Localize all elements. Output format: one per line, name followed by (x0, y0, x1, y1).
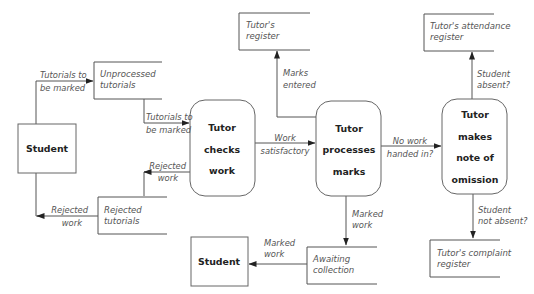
flow-label-f11: Student not absent? (478, 205, 528, 226)
svg-text:work: work (62, 218, 83, 228)
svg-text:work: work (158, 173, 179, 183)
entity-label: Student (198, 256, 241, 267)
store-label: register (437, 259, 471, 269)
entity-student-bottom: Student (191, 237, 248, 286)
store-label: Tutor's attendance (430, 21, 510, 31)
store-awaiting-collection: Awaiting collection (307, 247, 377, 284)
flow-label-f9: No work handed in? (387, 136, 434, 159)
store-label: Unprocessed (100, 69, 156, 79)
store-label: tutorials (100, 80, 136, 90)
svg-text:Work: Work (274, 133, 297, 143)
svg-text:Tutorials to: Tutorials to (146, 112, 193, 122)
svg-text:be marked: be marked (146, 125, 192, 135)
svg-text:Tutorials to: Tutorials to (40, 70, 87, 80)
store-tutors-register: Tutor's register (239, 13, 310, 50)
store-unprocessed-tutorials: Unprocessed tutorials (94, 62, 162, 99)
store-tutors-attendance-register: Tutor's attendance register (424, 14, 510, 51)
flow-label-f5: Work satisfactory (261, 133, 311, 156)
process-tutor-processes-marks: Tutor processes marks (316, 101, 381, 196)
store-label: Awaiting (312, 254, 351, 264)
store-label: register (246, 31, 280, 41)
svg-text:Rejected: Rejected (51, 205, 88, 215)
process-label: marks (333, 166, 366, 177)
store-label: Rejected (104, 205, 142, 215)
store-label: Tutor's (246, 20, 275, 30)
flow-label-f10: Student absent? (477, 69, 511, 90)
entity-student-left: Student (18, 124, 76, 173)
flow-label-f6: Marks entered (283, 68, 316, 90)
flow-label-f8: Marked work (264, 238, 296, 259)
store-label: register (430, 32, 464, 42)
store-label: Tutor's complaint (437, 248, 512, 258)
svg-text:entered: entered (283, 80, 316, 90)
svg-text:not absent?: not absent? (478, 216, 528, 226)
svg-text:be marked: be marked (40, 83, 86, 93)
process-tutor-makes-note-of-omission: Tutor makes note of omission (442, 99, 507, 194)
svg-text:absent?: absent? (477, 80, 511, 90)
process-tutor-checks-work: Tutor checks work (190, 100, 255, 196)
svg-text:Marked: Marked (352, 209, 384, 219)
svg-text:Student: Student (477, 69, 511, 79)
process-label: omission (452, 174, 499, 185)
process-label: work (209, 165, 236, 176)
svg-text:Marked: Marked (264, 238, 296, 248)
process-label: checks (204, 144, 240, 155)
process-label: Tutor (461, 109, 489, 120)
svg-text:Rejected: Rejected (149, 161, 186, 171)
svg-text:Marks: Marks (283, 68, 309, 78)
process-label: processes (323, 144, 376, 155)
store-label: tutorials (104, 216, 140, 226)
store-tutors-complaint-register: Tutor's complaint register (430, 240, 512, 277)
svg-text:satisfactory: satisfactory (261, 146, 311, 156)
svg-text:handed in?: handed in? (387, 149, 434, 159)
entity-label: Student (26, 143, 69, 154)
store-rejected-tutorials: Rejected tutorials (98, 197, 167, 234)
flow-label-f7: Marked work (352, 209, 384, 230)
store-label: collection (313, 265, 354, 275)
process-label: makes (458, 131, 492, 142)
svg-text:No work: No work (393, 136, 428, 146)
process-label: note of (456, 152, 495, 163)
process-label: Tutor (335, 123, 363, 134)
svg-text:work: work (264, 249, 285, 259)
svg-text:work: work (352, 220, 373, 230)
data-flow-diagram: Student Student Tutor checks work Tutor … (0, 0, 534, 294)
svg-text:Student: Student (478, 205, 512, 215)
process-label: Tutor (208, 122, 236, 133)
